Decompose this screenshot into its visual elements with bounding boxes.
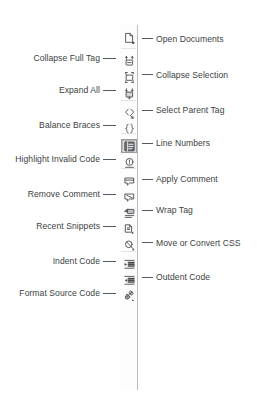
callout-leader-line: [142, 110, 153, 111]
callout-leader-line: [103, 58, 116, 59]
callout-leader-line: [103, 293, 116, 294]
callout-label: Expand All: [59, 85, 100, 95]
select-parent-tag-icon[interactable]: [121, 106, 137, 120]
indent-code-icon[interactable]: [121, 257, 137, 271]
callout-label: Collapse Full Tag: [33, 53, 100, 63]
apply-comment-icon[interactable]: [121, 174, 137, 188]
line-numbers-icon[interactable]: [121, 139, 137, 153]
coding-toolbar-diagram: Open DocumentsCollapse Full TagCollapse …: [0, 0, 257, 400]
callout-leader-line: [103, 194, 116, 195]
toolbar-separator: [121, 48, 136, 49]
callout-label: Apply Comment: [156, 174, 218, 184]
wrap-tag-icon[interactable]: [121, 206, 137, 220]
callout-label: Select Parent Tag: [156, 105, 225, 115]
callout-leader-line: [103, 90, 116, 91]
callout-label: Open Documents: [156, 34, 224, 44]
recent-snippets-icon[interactable]: [121, 222, 137, 236]
callout-leader-line: [142, 74, 153, 75]
toolbar-separator: [121, 100, 136, 101]
callout-leader-line: [103, 125, 116, 126]
coding-toolbar-buttons: [120, 25, 137, 390]
callout-leader-line: [103, 261, 116, 262]
callout-leader-line: [142, 210, 153, 211]
callout-label: Remove Comment: [28, 189, 100, 199]
callout-leader-line: [142, 143, 153, 144]
highlight-invalid-code-icon[interactable]: [121, 155, 137, 169]
callout-leader-line: [142, 277, 153, 278]
open-documents-icon[interactable]: [121, 31, 137, 45]
callout-label: Move or Convert CSS: [156, 238, 241, 248]
callout-label: Collapse Selection: [156, 70, 228, 80]
callout-leader-line: [142, 179, 153, 180]
callout-label: Format Source Code: [19, 288, 100, 298]
callout-leader-line: [142, 38, 153, 39]
callout-label: Indent Code: [53, 256, 100, 266]
format-source-code-icon[interactable]: [121, 289, 137, 303]
outdent-code-icon[interactable]: [121, 273, 137, 287]
callout-label: Balance Braces: [39, 120, 100, 130]
callout-leader-line: [142, 242, 153, 243]
callout-label: Recent Snippets: [36, 221, 100, 231]
move-or-convert-css-icon[interactable]: [121, 238, 137, 252]
callout-leader-line: [103, 159, 116, 160]
expand-all-icon[interactable]: [121, 86, 137, 100]
callout-label: Line Numbers: [156, 138, 210, 148]
remove-comment-icon[interactable]: [121, 190, 137, 204]
callout-leader-line: [103, 226, 116, 227]
callout-label: Highlight Invalid Code: [15, 154, 100, 164]
collapse-full-tag-icon[interactable]: [121, 54, 137, 68]
collapse-selection-icon[interactable]: [121, 70, 137, 84]
balance-braces-icon[interactable]: [121, 121, 137, 135]
callout-label: Wrap Tag: [156, 205, 193, 215]
callout-label: Outdent Code: [156, 272, 210, 282]
coding-toolbar: [120, 25, 138, 390]
